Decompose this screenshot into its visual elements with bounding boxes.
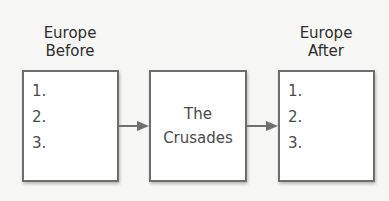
crusades-label: The Crusades [151, 102, 245, 150]
left-title-line1: Europe [20, 24, 120, 42]
before-item-2: 2. [32, 104, 46, 130]
left-title: Europe Before [20, 24, 120, 60]
crusades-line1: The [151, 102, 245, 126]
before-item-1: 1. [32, 78, 46, 104]
europe-before-box: 1. 2. 3. [22, 70, 119, 182]
after-item-3: 3. [288, 130, 302, 156]
crusades-line2: Crusades [151, 126, 245, 150]
crusades-box: The Crusades [149, 70, 247, 182]
left-title-line2: Before [20, 42, 120, 60]
europe-after-box: 1. 2. 3. [278, 70, 375, 182]
arrow-right-icon [119, 121, 149, 131]
arrow-right-icon [247, 121, 278, 131]
right-title-line2: After [276, 42, 376, 60]
right-title-line1: Europe [276, 24, 376, 42]
after-item-2: 2. [288, 104, 302, 130]
right-title: Europe After [276, 24, 376, 60]
after-list: 1. 2. 3. [288, 78, 302, 156]
before-item-3: 3. [32, 130, 46, 156]
after-item-1: 1. [288, 78, 302, 104]
before-list: 1. 2. 3. [32, 78, 46, 156]
